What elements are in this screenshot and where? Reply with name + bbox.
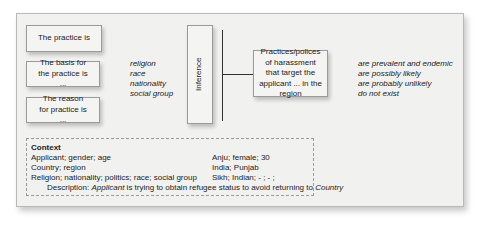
target-box: Practices/polices of harassment that tar…	[253, 50, 328, 97]
context-value: India; Punjab	[212, 163, 275, 173]
context-field: Religion; nationality; politics; race; s…	[31, 173, 197, 183]
likelihood-item: are prevalent and endemic	[358, 59, 453, 69]
likelihood-item: are possibly likely	[358, 69, 453, 79]
likelihood-list: are prevalent and endemic are possibly l…	[358, 59, 453, 99]
grounds-item: race	[130, 69, 173, 79]
grounds-item: religion	[130, 59, 173, 69]
grounds-item: nationality	[130, 79, 173, 89]
description-prefix: Description:	[47, 183, 91, 192]
description-subject: Applicant	[91, 183, 124, 192]
inference-label: Inference	[195, 58, 206, 91]
basis-box: The basis for the practice is ...	[26, 61, 100, 87]
context-field: Country; region	[31, 163, 197, 173]
practice-box: The practice is	[26, 25, 102, 52]
target-box-label: Practices/polices of harassment that tar…	[258, 47, 323, 100]
reason-box: The reason for practice is ...	[26, 97, 100, 123]
basis-box-label: The basis for the practice is ...	[35, 58, 91, 90]
context-fields: Context Applicant; gender; age Country; …	[31, 143, 197, 183]
practice-box-label: The practice is	[38, 33, 90, 44]
context-value: Sikh; Indian; - ; - ;	[212, 173, 275, 183]
inference-box: Inference	[187, 25, 213, 124]
context-description: Description: Applicant is trying to obta…	[47, 183, 343, 193]
context-box: Context Applicant; gender; age Country; …	[26, 138, 314, 196]
grounds-list: religion race nationality social group	[130, 59, 173, 99]
likelihood-item: do not exist	[358, 89, 453, 99]
description-middle: is trying to obtain refugee status to av…	[124, 183, 315, 192]
likelihood-item: are probably unlikely	[358, 79, 453, 89]
connector-line	[222, 74, 253, 75]
description-object: Country	[315, 183, 343, 192]
reason-box-label: The reason for practice is ...	[37, 94, 89, 126]
context-title: Context	[31, 143, 197, 153]
context-value: Anju; female; 30	[212, 153, 275, 163]
context-values: Anju; female; 30 India; Punjab Sikh; Ind…	[212, 153, 275, 183]
inference-bar	[222, 30, 223, 121]
context-field: Applicant; gender; age	[31, 153, 197, 163]
grounds-item: social group	[130, 89, 173, 99]
